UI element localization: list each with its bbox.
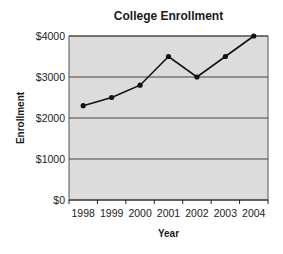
x-tick-label: 2002: [185, 207, 209, 219]
x-tick-label: 2004: [242, 207, 266, 219]
x-tick-label: 2001: [157, 207, 181, 219]
x-tick-label: 2000: [128, 207, 152, 219]
x-tick-label: 1999: [100, 207, 124, 219]
data-point: [251, 33, 256, 38]
data-point: [109, 95, 114, 100]
y-tick-label: $2000: [36, 112, 65, 124]
y-tick-label: $3000: [36, 71, 65, 83]
data-point: [81, 103, 86, 108]
x-tick-label: 1998: [72, 207, 96, 219]
y-tick-label: $1000: [36, 153, 65, 165]
data-point: [194, 74, 199, 79]
x-tick-label: 2003: [214, 207, 238, 219]
line-chart: $0$1000$2000$3000$4000199819992000200120…: [0, 0, 283, 254]
data-point: [137, 83, 142, 88]
data-point: [166, 54, 171, 59]
y-tick-label: $0: [53, 194, 65, 206]
data-point: [223, 54, 228, 59]
y-tick-label: $4000: [36, 30, 65, 42]
